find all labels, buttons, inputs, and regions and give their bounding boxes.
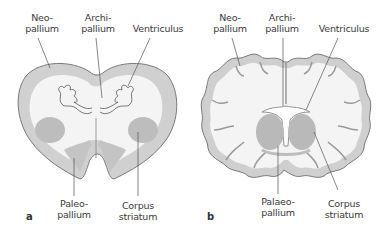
label-b-palaeopallium: Palaeo- pallium <box>256 196 300 218</box>
panel-b-corpus-striatum-left <box>256 114 284 150</box>
label-a-paleopallium: Paleo- pallium <box>56 198 92 220</box>
panel-b-brain <box>201 54 370 177</box>
label-b-neopallium: Neo- pallium <box>212 12 248 34</box>
panel-letter-b: b <box>207 211 214 222</box>
panel-letter-a: a <box>26 211 33 222</box>
label-b-corpus-striatum: Corpus striatum <box>322 198 366 220</box>
label-b-ventriculus: Ventriculus <box>314 23 374 34</box>
panel-a-corpus-striatum-left <box>35 117 65 143</box>
label-a-corpus-striatum: Corpus striatum <box>118 200 158 222</box>
label-a-archipallium: Archi- pallium <box>80 12 116 34</box>
panel-a-brain <box>18 63 177 178</box>
label-a-neopallium: Neo- pallium <box>24 12 60 34</box>
label-a-ventriculus: Ventriculus <box>130 23 186 34</box>
label-b-archipallium: Archi- pallium <box>264 12 300 34</box>
panel-b-corpus-striatum-right <box>288 114 316 150</box>
panel-a-corpus-striatum-right <box>128 117 158 143</box>
